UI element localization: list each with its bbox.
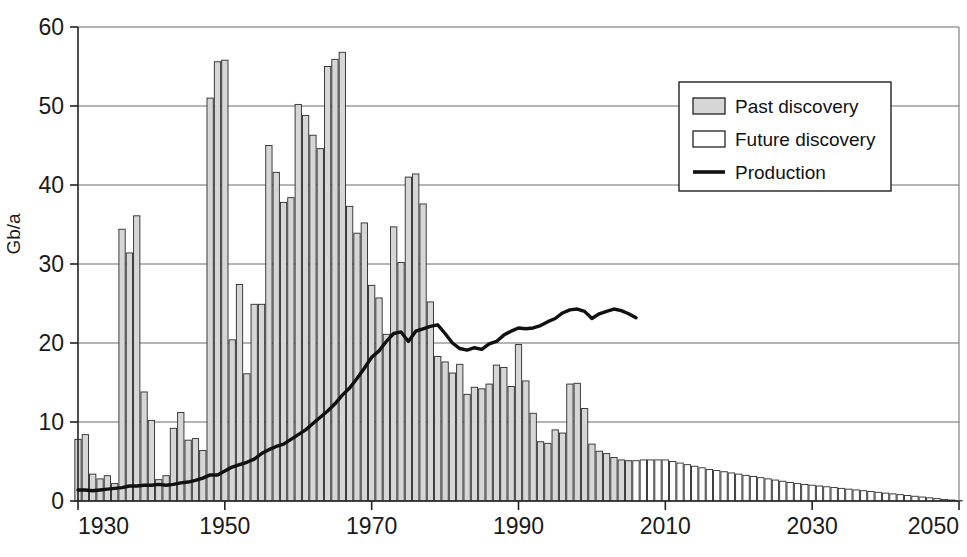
future-discovery-bar — [706, 469, 712, 501]
future-discovery-bar — [860, 491, 866, 501]
past-discovery-bar — [236, 285, 242, 501]
y-tick-label: 20 — [38, 330, 64, 356]
past-discovery-bar — [170, 428, 176, 501]
past-discovery-bar — [383, 334, 389, 501]
future-discovery-bar — [670, 462, 676, 502]
past-discovery-bar — [134, 216, 140, 501]
past-discovery-bar — [295, 104, 301, 501]
future-discovery-bar — [868, 492, 874, 501]
past-discovery-bar — [391, 227, 397, 501]
past-discovery-bar — [427, 302, 433, 501]
past-discovery-bar — [148, 420, 154, 501]
past-discovery-bar — [464, 394, 470, 501]
past-discovery-bar — [163, 476, 169, 501]
past-discovery-bars — [75, 52, 632, 501]
future-discovery-bar — [890, 494, 896, 501]
past-discovery-bar — [369, 285, 375, 501]
past-discovery-bar — [420, 204, 426, 501]
past-discovery-bar — [523, 381, 529, 501]
future-discovery-bar — [853, 490, 859, 501]
past-discovery-bar — [479, 389, 485, 501]
future-discovery-bar — [714, 471, 720, 501]
future-discovery-bar — [809, 485, 815, 501]
past-discovery-bar — [258, 304, 264, 501]
past-discovery-bar — [457, 364, 463, 501]
future-discovery-bar — [692, 466, 698, 501]
future-discovery-bar — [640, 460, 646, 501]
past-discovery-bar — [244, 374, 250, 501]
past-discovery-bar — [589, 444, 595, 501]
past-discovery-bar — [545, 443, 551, 501]
future-discovery-bar — [772, 480, 778, 501]
y-tick-label: 0 — [51, 488, 64, 514]
chart-canvas: 0102030405060 19301950197019902010203020… — [0, 0, 967, 557]
past-discovery-bar — [126, 253, 132, 501]
future-discovery-bar — [721, 472, 727, 501]
future-discovery-bar — [699, 468, 705, 501]
y-tick-label: 40 — [38, 172, 64, 198]
past-discovery-bar — [625, 461, 631, 501]
y-tick-label: 60 — [38, 14, 64, 40]
future-discovery-bar — [750, 477, 756, 501]
past-discovery-bar — [354, 233, 360, 501]
past-discovery-bar — [413, 174, 419, 501]
past-discovery-bar — [567, 384, 573, 501]
future-discovery-bar — [882, 493, 888, 501]
legend-label: Production — [735, 162, 826, 183]
future-discovery-bar — [780, 481, 786, 501]
y-axis-tick-labels: 0102030405060 — [38, 14, 64, 514]
future-discovery-bar — [831, 488, 837, 501]
past-discovery-bar — [339, 52, 345, 501]
future-discovery-bar — [684, 465, 690, 501]
past-discovery-bar — [611, 458, 617, 501]
x-tick-label: 2030 — [787, 513, 838, 539]
past-discovery-bar — [618, 460, 624, 501]
past-discovery-bar — [574, 383, 580, 501]
x-tick-label: 1950 — [199, 513, 250, 539]
past-discovery-bar — [280, 202, 286, 501]
past-discovery-bar — [324, 67, 330, 502]
y-axis-label-text: Gb/a — [3, 213, 24, 255]
past-discovery-bar — [435, 356, 441, 501]
past-discovery-bar — [596, 451, 602, 501]
past-discovery-bar — [493, 365, 499, 501]
chart-legend: Past discoveryFuture discoveryProduction — [679, 82, 891, 191]
future-discovery-bar — [838, 488, 844, 501]
legend-label: Future discovery — [735, 129, 876, 150]
past-discovery-bar — [501, 367, 507, 501]
y-axis-title: Gb/a — [3, 213, 24, 255]
past-discovery-bar — [398, 262, 404, 501]
future-discovery-bar — [743, 475, 749, 501]
past-discovery-bar — [559, 433, 565, 501]
future-discovery-bar — [765, 479, 771, 501]
future-discovery-bar — [802, 484, 808, 501]
future-discovery-bar — [787, 482, 793, 501]
past-discovery-bar — [486, 384, 492, 501]
past-discovery-bar — [332, 59, 338, 501]
future-discovery-bar — [875, 492, 881, 501]
past-discovery-bar — [90, 474, 96, 501]
past-discovery-bar — [508, 386, 514, 501]
past-discovery-bar — [302, 115, 308, 501]
past-discovery-bar — [251, 304, 257, 501]
y-tick-label: 30 — [38, 251, 64, 277]
past-discovery-bar — [192, 439, 198, 501]
future-discovery-bar — [904, 495, 910, 501]
x-tick-label: 1970 — [346, 513, 397, 539]
past-discovery-bar — [288, 198, 294, 501]
past-discovery-bar — [603, 454, 609, 501]
future-discovery-bar — [824, 487, 830, 501]
x-tick-label: 2050 — [908, 513, 959, 539]
x-tick-label: 1930 — [78, 513, 129, 539]
future-discovery-bar — [633, 461, 639, 501]
x-axis-tick-labels: 1930195019701990201020302050 — [78, 513, 959, 539]
future-discovery-bar — [736, 474, 742, 501]
y-tick-label: 10 — [38, 409, 64, 435]
past-discovery-bar — [112, 484, 118, 501]
past-discovery-bar — [552, 430, 558, 501]
past-discovery-bar — [207, 98, 213, 501]
y-tick-label: 50 — [38, 93, 64, 119]
past-discovery-bar — [581, 409, 587, 501]
legend-filled-swatch — [693, 98, 725, 114]
past-discovery-bar — [376, 298, 382, 501]
